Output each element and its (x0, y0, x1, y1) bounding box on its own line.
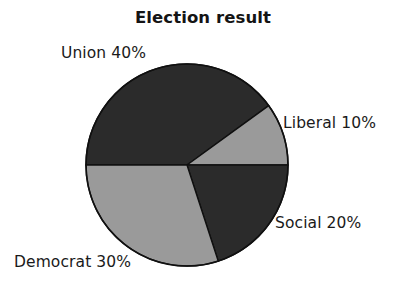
slice-label-liberal: Liberal 10% (283, 114, 376, 132)
slice-label-union: Union 40% (61, 44, 146, 62)
slice-label-democrat: Democrat 30% (14, 253, 131, 271)
pie-chart-graphic (0, 0, 406, 285)
pie-chart-figure: Election result Union 40% Liberal 10% So… (0, 0, 406, 285)
slice-label-social: Social 20% (275, 214, 361, 232)
pie-slices-group (86, 64, 288, 266)
